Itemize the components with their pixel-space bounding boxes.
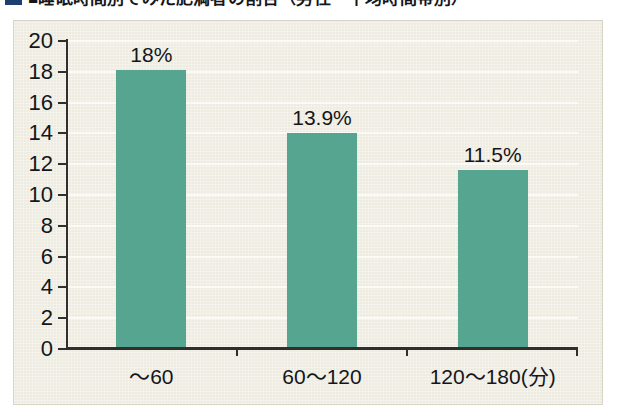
- y-axis-tick-label: 14: [29, 122, 53, 144]
- y-axis-tick: [58, 132, 66, 134]
- y-axis-tick: [58, 286, 66, 288]
- caption-bullet-icon: [5, 0, 22, 5]
- y-axis-tick: [58, 256, 66, 258]
- bar: [458, 170, 528, 347]
- y-axis-tick-label: 8: [41, 215, 53, 237]
- y-axis-tick-label: 18: [29, 61, 53, 83]
- figure-caption: ■睡眠時間別でみた肥満者の割合（男性・平均時間帯別）: [0, 0, 617, 13]
- y-axis-tick-label: 6: [41, 246, 53, 268]
- chart-frame: 02468101214161820 18%13.9%11.5% 〜6060〜12…: [13, 20, 603, 405]
- y-axis-line: [66, 39, 68, 349]
- gridline: [66, 40, 578, 42]
- figure-page: ■睡眠時間別でみた肥満者の割合（男性・平均時間帯別） 0246810121416…: [0, 0, 617, 420]
- y-axis-tick-label: 2: [41, 307, 53, 329]
- y-axis-tick: [58, 163, 66, 165]
- y-axis-tick: [58, 71, 66, 73]
- y-axis-tick: [58, 348, 66, 350]
- x-axis-tick: [406, 347, 408, 356]
- y-axis-tick: [58, 40, 66, 42]
- y-axis-tick-label: 12: [29, 153, 53, 175]
- y-axis-tick-label: 10: [29, 184, 53, 206]
- x-axis-category-label: 60〜120: [282, 366, 361, 387]
- y-axis-tick-label: 4: [41, 276, 53, 298]
- bar-value-label: 11.5%: [464, 144, 522, 165]
- bar: [287, 133, 357, 347]
- y-axis-tick: [58, 194, 66, 196]
- y-axis-tick-label: 16: [29, 92, 53, 114]
- y-axis-tick: [58, 317, 66, 319]
- x-axis-line: [66, 347, 578, 350]
- caption-text: ■睡眠時間別でみた肥満者の割合（男性・平均時間帯別）: [28, 0, 468, 9]
- x-axis-tick: [576, 347, 578, 356]
- y-axis-tick: [58, 225, 66, 227]
- bar-value-label: 18%: [130, 44, 172, 65]
- bar-value-label: 13.9%: [292, 107, 352, 128]
- y-axis-tick-label: 20: [29, 30, 53, 52]
- x-axis-tick: [236, 347, 238, 356]
- plot-area: 02468101214161820 18%13.9%11.5% 〜6060〜12…: [66, 39, 578, 349]
- y-axis-tick: [58, 102, 66, 104]
- bar: [116, 70, 186, 347]
- x-axis-category-label: 120〜180(分): [430, 366, 556, 387]
- x-axis-category-label: 〜60: [129, 366, 173, 387]
- y-axis-tick-label: 0: [41, 338, 53, 360]
